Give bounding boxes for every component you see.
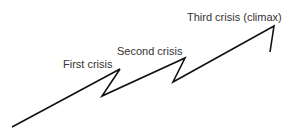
label-first-crisis: First crisis [63, 59, 113, 70]
diagram: First crisis Second crisis Third crisis … [0, 0, 285, 130]
label-third-crisis: Third crisis (climax) [187, 12, 282, 23]
label-second-crisis: Second crisis [117, 46, 182, 57]
